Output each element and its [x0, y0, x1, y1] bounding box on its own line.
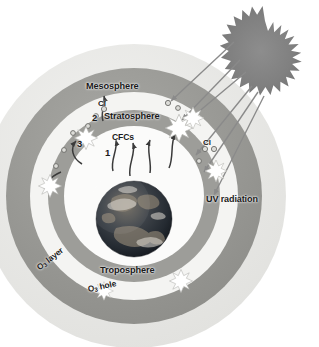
chlorine-dot — [54, 164, 59, 169]
starburst — [74, 126, 97, 149]
chlorine-dot — [211, 146, 216, 151]
chlorine-dot — [165, 100, 170, 105]
starburst — [205, 160, 227, 182]
starburst — [169, 269, 192, 292]
chlorine-dot — [202, 146, 207, 151]
chlorine-dot — [94, 114, 99, 119]
starburst — [38, 174, 61, 197]
chlorine-dot — [71, 131, 76, 136]
starburst — [182, 107, 204, 129]
chlorine-dot — [197, 159, 202, 164]
diagram-canvas — [0, 0, 319, 347]
chlorine-dot — [176, 106, 181, 111]
starburst — [95, 282, 114, 301]
ozone-diagram: Mesosphere Stratosphere Troposphere CFCs… — [0, 0, 319, 347]
chlorine-dot — [62, 148, 67, 153]
chlorine-dot — [101, 106, 106, 111]
